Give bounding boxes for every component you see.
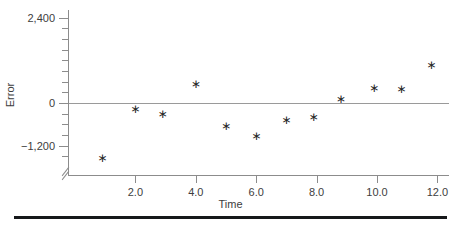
y-axis-minor-tick <box>62 50 68 51</box>
data-point: ∗ <box>336 93 346 105</box>
x-axis-tick <box>196 176 197 183</box>
y-axis-tick-label: 0 <box>8 97 55 109</box>
y-axis-minor-tick <box>62 114 68 115</box>
y-axis-title: Error <box>3 62 17 128</box>
x-axis-tick <box>317 176 318 183</box>
x-axis-title: Time <box>0 198 461 210</box>
y-axis-minor-tick <box>62 60 68 61</box>
x-axis-tick-label: 6.0 <box>249 186 264 198</box>
x-axis-tick <box>437 176 438 183</box>
y-axis-tick <box>59 146 68 147</box>
data-point: ∗ <box>396 83 406 95</box>
data-point: ∗ <box>97 152 107 164</box>
y-axis-line <box>68 10 69 175</box>
zero-line <box>69 103 449 104</box>
x-axis-tick <box>377 176 378 183</box>
data-point: ∗ <box>130 103 140 115</box>
y-axis-minor-tick <box>62 135 68 136</box>
y-axis-minor-tick <box>62 71 68 72</box>
data-point: ∗ <box>191 78 201 90</box>
y-axis-minor-tick <box>62 92 68 93</box>
y-axis-minor-tick <box>62 28 68 29</box>
data-point: ∗ <box>281 114 291 126</box>
y-axis-minor-tick <box>62 82 68 83</box>
x-axis-line <box>68 175 449 176</box>
y-axis-minor-tick <box>62 156 68 157</box>
x-axis-title-label: Time <box>218 198 242 210</box>
y-axis-tick <box>59 18 68 19</box>
x-axis-tick-label: 4.0 <box>188 186 203 198</box>
y-axis-minor-tick <box>62 124 68 125</box>
x-axis-tick-label: 8.0 <box>309 186 324 198</box>
y-axis-minor-tick <box>62 39 68 40</box>
scatter-plot-figure: Error 2,4000−1,200 2.04.06.08.010.012.0 … <box>0 0 461 226</box>
data-point: ∗ <box>369 82 379 94</box>
data-point: ∗ <box>251 130 261 142</box>
data-point: ∗ <box>158 108 168 120</box>
axis-break-icon <box>60 166 74 180</box>
y-axis-tick-label: 2,400 <box>8 12 55 24</box>
x-axis-tick <box>256 176 257 183</box>
bottom-divider <box>14 216 447 219</box>
x-axis-tick-label: 12.0 <box>427 186 448 198</box>
y-axis-tick-label: −1,200 <box>8 140 55 152</box>
x-axis-tick-label: 10.0 <box>366 186 387 198</box>
y-axis-tick <box>59 103 68 104</box>
data-point: ∗ <box>309 111 319 123</box>
data-point: ∗ <box>426 59 436 71</box>
data-point: ∗ <box>221 120 231 132</box>
x-axis-tick-label: 2.0 <box>128 186 143 198</box>
x-axis-tick <box>135 176 136 183</box>
